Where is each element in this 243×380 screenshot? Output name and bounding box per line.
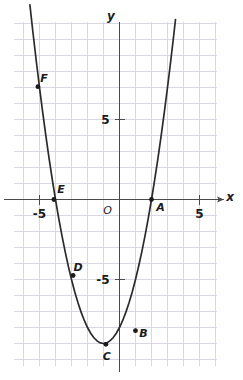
x-tick-label-0: -5 [33,207,46,221]
point-label-c: C [103,350,111,363]
point-label-b: B [139,327,147,340]
axes [4,22,224,372]
x-tick-label-1: 5 [195,207,203,221]
coordinate-plane-svg: ABCDEFxy-555-5O [0,0,243,380]
y-axis-label: y [107,9,116,23]
x-axis-label: x [225,190,235,204]
text-labels: ABCDEFxy-555-5O [33,9,235,363]
point-label-e: E [57,183,65,196]
y-tick-label-0: 5 [101,113,109,127]
data-point-c [104,342,109,347]
data-point-d [71,273,76,278]
point-label-d: D [74,261,83,274]
origin-label: O [103,204,112,217]
point-label-a: A [155,201,165,214]
graph-figure: ABCDEFxy-555-5O [0,0,243,380]
data-point-f [36,84,41,89]
data-point-a [149,197,154,202]
y-tick-label-1: -5 [96,273,109,287]
data-point-e [52,197,57,202]
point-label-f: F [40,72,48,85]
data-point-b [133,328,138,333]
